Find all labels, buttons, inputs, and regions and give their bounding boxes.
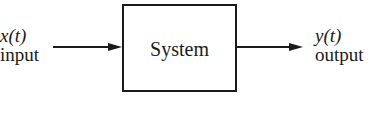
output-arrow	[236, 43, 303, 51]
output-label: output	[315, 45, 364, 64]
output-signal-label: y(t)	[315, 26, 341, 45]
system-label: System	[124, 38, 235, 61]
input-arrow	[53, 43, 122, 51]
system-block: System	[122, 4, 237, 92]
